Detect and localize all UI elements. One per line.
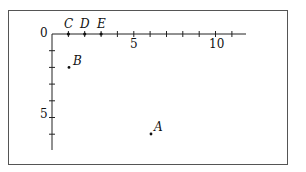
point-b: B	[68, 54, 82, 69]
y-tick-label-5: 5	[40, 107, 48, 121]
point-d-label: D	[79, 17, 90, 31]
coordinate-diagram: 0 5 10 5 C D E B A	[0, 0, 306, 172]
point-d-dot	[83, 32, 86, 35]
origin-label: 0	[40, 26, 48, 40]
x-tick-label-5: 5	[130, 37, 138, 51]
point-e: E	[96, 17, 106, 36]
point-d: D	[79, 17, 90, 36]
point-c: C	[64, 17, 73, 36]
point-e-label: E	[96, 17, 106, 31]
point-a-label: A	[153, 120, 163, 134]
point-b-label: B	[72, 54, 82, 68]
point-c-label: C	[64, 17, 73, 31]
point-a: A	[150, 120, 163, 135]
point-e-dot	[100, 32, 103, 35]
x-tick-label-10: 10	[209, 37, 224, 51]
point-b-dot	[68, 66, 71, 69]
point-c-dot	[67, 32, 70, 35]
point-a-dot	[150, 133, 153, 136]
